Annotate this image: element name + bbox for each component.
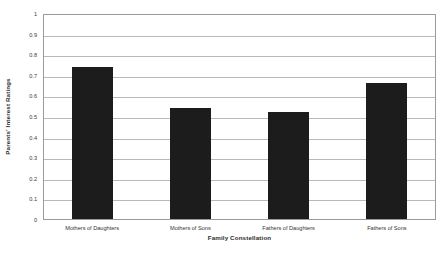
- y-axis-tick-label: 0.1: [29, 196, 37, 202]
- bar: [366, 83, 407, 219]
- bar-slot: [44, 15, 142, 219]
- y-axis-title-label: Parents' Interest Ratings: [4, 78, 11, 154]
- bar: [268, 112, 309, 219]
- y-axis-tick-label: 0.8: [29, 52, 37, 58]
- bar-slot: [142, 15, 240, 219]
- bar: [72, 67, 113, 219]
- bar-chart-figure: Parents' Interest Ratings 10.90.80.70.60…: [0, 0, 447, 254]
- bar-slot: [240, 15, 338, 219]
- bars-group: [44, 15, 435, 219]
- bar-slot: [337, 15, 435, 219]
- y-axis-tick-label: 1: [34, 11, 37, 17]
- y-axis-tick-label: 0.9: [29, 32, 37, 38]
- y-axis-tick-label: 0.2: [29, 176, 37, 182]
- y-axis-tick-label: 0.7: [29, 73, 37, 79]
- y-axis-tick-label: 0.5: [29, 114, 37, 120]
- x-axis-title: Family Constellation: [43, 234, 436, 241]
- plot-area: [43, 14, 436, 220]
- y-axis-tick-label: 0: [34, 217, 37, 223]
- y-axis-tick-labels: 10.90.80.70.60.50.40.30.20.10: [14, 14, 40, 220]
- y-axis-tick-label: 0.3: [29, 155, 37, 161]
- bar: [170, 108, 211, 219]
- y-axis-tick-label: 0.6: [29, 93, 37, 99]
- y-axis-tick-label: 0.4: [29, 135, 37, 141]
- y-axis-title: Parents' Interest Ratings: [0, 0, 14, 232]
